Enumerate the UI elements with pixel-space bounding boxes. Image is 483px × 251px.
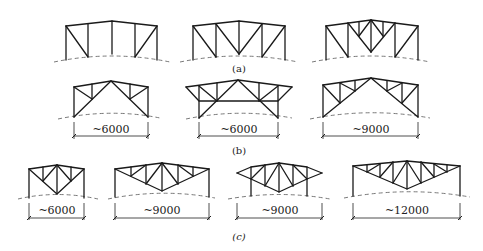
ground-line [18, 195, 98, 200]
dimension-label: ~9000 [143, 204, 180, 217]
ground-line [180, 56, 298, 62]
truss-c4: ~12000 [344, 161, 470, 220]
dimension-label: ~9000 [261, 204, 298, 217]
truss-c3: ~9000 [228, 163, 330, 220]
ground-line [54, 56, 170, 62]
truss-b2: ~6000 [186, 80, 292, 139]
dimension-label: ~9000 [352, 123, 389, 136]
ground-line [108, 193, 215, 199]
truss-b3: ~9000 [310, 78, 430, 139]
caption-a: (a) [232, 63, 246, 74]
dimension-label: ~6000 [38, 204, 75, 217]
dimension-label: ~12000 [385, 204, 429, 217]
truss-a2 [180, 21, 298, 62]
truss-b1: ~6000 [58, 81, 160, 139]
row-a: (a) [54, 20, 430, 74]
ground-line [228, 195, 330, 200]
caption-b: (b) [232, 145, 246, 156]
ground-line [312, 56, 430, 62]
dimension-label: ~6000 [92, 123, 129, 136]
dimension-label: ~6000 [220, 123, 257, 136]
ground-line [344, 192, 470, 198]
caption-c: (c) [232, 231, 246, 242]
truss-a1 [54, 21, 170, 62]
truss-types-figure: (a) ~6000 [0, 0, 483, 251]
truss-a3 [312, 20, 430, 62]
row-b: ~6000 ~6000 [58, 78, 430, 156]
truss-c1: ~6000 [18, 165, 98, 220]
row-c: ~6000 ~9000 [18, 161, 470, 242]
truss-c2: ~9000 [108, 163, 215, 220]
